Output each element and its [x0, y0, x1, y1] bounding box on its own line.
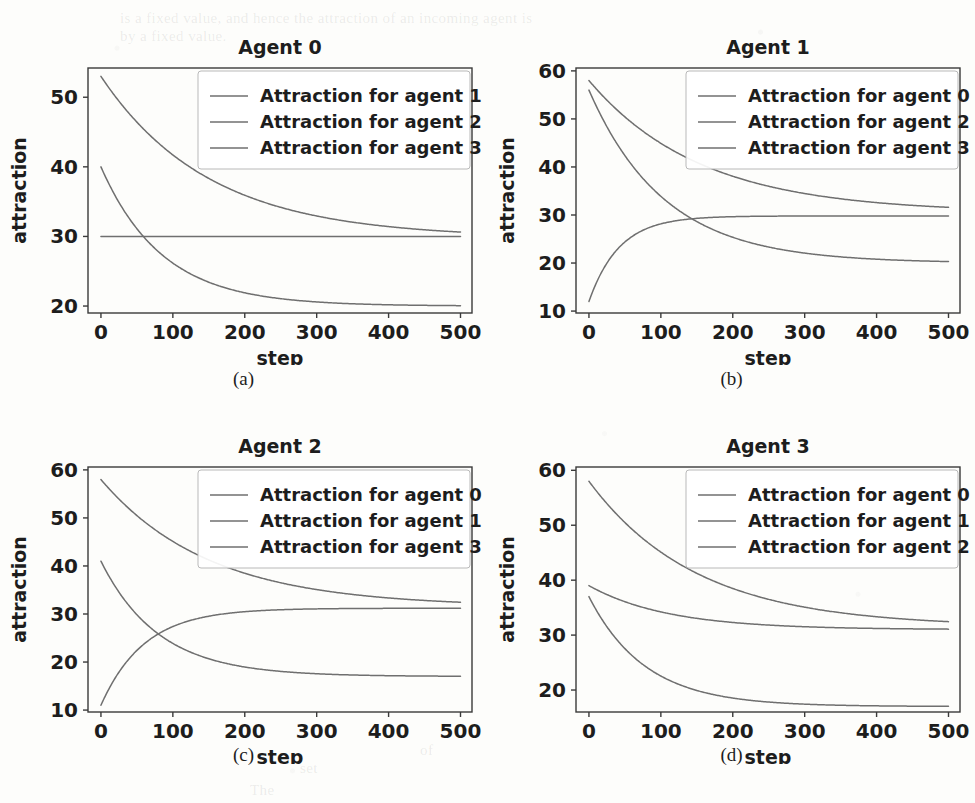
legend-label: Attraction for agent 2 — [748, 111, 970, 132]
chart-legend: Attraction for agent 1Attraction for age… — [198, 71, 482, 169]
y-tick-label: 30 — [538, 623, 566, 647]
y-axis-label: attraction — [8, 536, 30, 643]
x-tick-label: 400 — [368, 320, 410, 344]
chart-panel-b: Agent 10100200300400500102030405060stepa… — [488, 0, 975, 401]
series-line — [589, 597, 949, 707]
x-tick-label: 100 — [640, 320, 682, 344]
x-tick-label: 300 — [784, 320, 826, 344]
y-tick-label: 20 — [50, 294, 78, 318]
chart-panel-c: Agent 20100200300400500102030405060stepa… — [0, 399, 487, 800]
chart-legend: Attraction for agent 0Attraction for age… — [686, 71, 970, 169]
y-tick-label: 30 — [538, 203, 566, 227]
subplot-caption-b: (b) — [488, 368, 975, 390]
y-tick-label: 60 — [538, 458, 566, 482]
x-axis-label: step — [745, 347, 792, 365]
x-tick-label: 400 — [856, 320, 898, 344]
chart-panel-d: Agent 301002003004005002030405060stepatt… — [488, 399, 975, 800]
y-tick-label: 50 — [50, 506, 78, 530]
chart-panel-a: Agent 0010020030040050020304050stepattra… — [0, 0, 487, 401]
chart-legend: Attraction for agent 0Attraction for age… — [686, 470, 970, 568]
x-axis-label: step — [257, 347, 304, 365]
series-line — [101, 561, 461, 676]
x-tick-label: 400 — [368, 719, 410, 743]
chart-title: Agent 1 — [726, 36, 810, 58]
y-tick-label: 30 — [50, 602, 78, 626]
legend-label: Attraction for agent 0 — [748, 85, 970, 106]
x-tick-label: 500 — [440, 320, 482, 344]
y-axis-label: attraction — [496, 536, 518, 643]
x-tick-label: 300 — [296, 320, 338, 344]
y-tick-label: 60 — [50, 458, 78, 482]
x-tick-label: 500 — [928, 719, 970, 743]
y-tick-label: 40 — [538, 568, 566, 592]
legend-label: Attraction for agent 1 — [260, 510, 482, 531]
y-tick-label: 10 — [50, 698, 78, 722]
legend-label: Attraction for agent 3 — [260, 137, 482, 158]
x-tick-label: 0 — [582, 719, 596, 743]
y-axis-label: attraction — [496, 137, 518, 244]
x-tick-label: 0 — [582, 320, 596, 344]
y-tick-label: 50 — [538, 513, 566, 537]
chart-legend: Attraction for agent 0Attraction for age… — [198, 470, 482, 568]
x-tick-label: 200 — [224, 719, 266, 743]
x-tick-label: 0 — [94, 320, 108, 344]
legend-label: Attraction for agent 1 — [260, 85, 482, 106]
x-tick-label: 200 — [712, 320, 754, 344]
x-tick-label: 400 — [856, 719, 898, 743]
chart-title: Agent 3 — [726, 435, 810, 457]
y-tick-label: 60 — [538, 59, 566, 83]
series-line — [101, 608, 461, 705]
chart-title: Agent 2 — [238, 435, 322, 457]
series-line — [589, 216, 949, 302]
chart-svg-agent-1: Agent 10100200300400500102030405060stepa… — [488, 0, 975, 365]
legend-label: Attraction for agent 1 — [748, 510, 970, 531]
legend-label: Attraction for agent 0 — [260, 484, 482, 505]
y-tick-label: 20 — [50, 650, 78, 674]
chart-svg-agent-0: Agent 0010020030040050020304050stepattra… — [0, 0, 487, 365]
x-tick-label: 100 — [152, 719, 194, 743]
legend-label: Attraction for agent 0 — [748, 484, 970, 505]
legend-label: Attraction for agent 2 — [260, 111, 482, 132]
subplot-caption-c: (c) — [0, 744, 487, 766]
y-axis-label: attraction — [8, 137, 30, 244]
x-tick-label: 0 — [94, 719, 108, 743]
y-tick-label: 50 — [50, 85, 78, 109]
x-tick-label: 200 — [712, 719, 754, 743]
y-tick-label: 20 — [538, 251, 566, 275]
y-tick-label: 40 — [50, 554, 78, 578]
chart-svg-agent-2: Agent 20100200300400500102030405060stepa… — [0, 399, 487, 764]
y-tick-label: 40 — [50, 155, 78, 179]
figure-grid: Agent 0010020030040050020304050stepattra… — [0, 0, 975, 803]
y-tick-label: 30 — [50, 224, 78, 248]
y-tick-label: 40 — [538, 155, 566, 179]
x-tick-label: 500 — [440, 719, 482, 743]
x-tick-label: 200 — [224, 320, 266, 344]
chart-svg-agent-3: Agent 301002003004005002030405060stepatt… — [488, 399, 975, 764]
legend-label: Attraction for agent 3 — [748, 137, 970, 158]
legend-label: Attraction for agent 2 — [748, 536, 970, 557]
x-tick-label: 500 — [928, 320, 970, 344]
x-tick-label: 100 — [640, 719, 682, 743]
x-tick-label: 300 — [784, 719, 826, 743]
subplot-caption-a: (a) — [0, 368, 487, 390]
subplot-caption-d: (d) — [488, 744, 975, 766]
series-line — [589, 586, 949, 629]
y-tick-label: 10 — [538, 299, 566, 323]
y-tick-label: 50 — [538, 107, 566, 131]
x-tick-label: 300 — [296, 719, 338, 743]
y-tick-label: 20 — [538, 678, 566, 702]
x-tick-label: 100 — [152, 320, 194, 344]
chart-title: Agent 0 — [238, 36, 322, 58]
legend-label: Attraction for agent 3 — [260, 536, 482, 557]
